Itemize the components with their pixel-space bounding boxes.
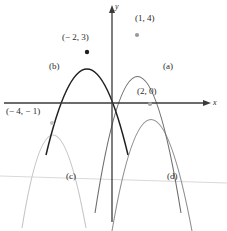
vertex-dot-b [85, 50, 89, 54]
vertex-label-c: (− 4, − 1) [6, 107, 40, 116]
vertex-label-d: (2, 0) [137, 87, 157, 96]
curve-label-b: (b) [49, 62, 60, 71]
vertex-dot-c [50, 121, 54, 125]
curve-label-a: (a) [163, 62, 173, 71]
vertex-label-a: (1, 4) [135, 14, 155, 23]
parabola-curve-a [95, 77, 181, 214]
parabola-curve-b [46, 69, 128, 155]
parabola-curve-c [22, 135, 86, 228]
vertex-dot-a [135, 33, 139, 37]
x-axis-label: x [213, 99, 217, 107]
scan-line [0, 176, 227, 183]
curve-label-c: (c) [66, 172, 76, 181]
vertex-dot-d [148, 102, 152, 106]
curve-label-d: (d) [167, 172, 178, 181]
x-axis-arrow-icon [203, 100, 211, 106]
y-axis-label: y [115, 3, 119, 11]
vertex-label-b: (− 2, 3) [62, 33, 89, 42]
